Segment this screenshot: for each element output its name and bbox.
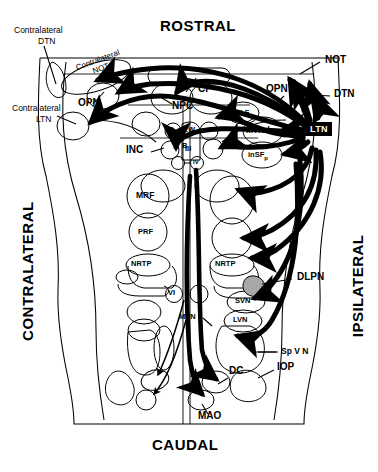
orientation-label-caudal: CAUDAL <box>152 437 218 453</box>
label-iop: IOP <box>277 362 294 373</box>
path-to-dtn-ipsi <box>318 98 320 118</box>
label-iv: IV <box>193 159 199 165</box>
orientation-label-rostral: ROSTRAL <box>160 18 236 34</box>
label-nrtp-ipsi: NRTP <box>215 260 235 268</box>
label-insfp-subscript: p <box>264 155 268 161</box>
orientation-label-contralateral: CONTRALATERAL <box>20 231 36 341</box>
label-mvn: MVN <box>179 313 196 321</box>
label-mtnd: MTNd <box>246 126 270 135</box>
label-svn: SVN <box>235 297 250 305</box>
label-iii: III <box>185 145 191 153</box>
path-to-mtnd <box>281 130 304 132</box>
path-to-iii <box>222 138 303 148</box>
label-spvn: Sp V N <box>281 347 308 356</box>
label-ew: EW <box>183 126 195 134</box>
brainstem-schematic-svg <box>0 0 378 472</box>
label-opn-contra: OPN <box>78 98 100 109</box>
label-inc: INC <box>126 145 143 156</box>
label-mao: MAO <box>198 411 221 422</box>
nucleus-dc <box>202 371 230 393</box>
label-rmlf: rMLF <box>231 109 249 117</box>
label-dlpn: DLPN <box>297 272 324 283</box>
label-mrf: MRF <box>136 191 154 200</box>
label-dc: DC <box>229 366 243 377</box>
label-cp: CP <box>198 84 212 95</box>
nucleus-sub-npc-left <box>132 112 160 136</box>
leader-iop <box>258 370 274 378</box>
leader-not-ipsi <box>300 62 320 74</box>
label-vi: VI <box>168 289 175 297</box>
label-d: D <box>169 126 174 134</box>
leader-dc <box>218 378 228 384</box>
label-contralateral-dtn-line1: Contralateral <box>14 26 63 35</box>
label-contralateral-ltn-line2: LTN <box>36 115 51 124</box>
descending-midline-pathways <box>187 170 216 394</box>
label-prf: PRF <box>138 228 153 236</box>
leader-contralateral-ltn <box>57 116 76 124</box>
nucleus-contralateral-ltn <box>57 112 89 140</box>
label-npc: NPC <box>172 101 193 112</box>
path-to-contralateral-not <box>98 68 307 124</box>
region-mid-right <box>195 170 239 202</box>
region-right-mrf <box>210 176 254 224</box>
label-ltn-source-node: LTN <box>306 122 332 136</box>
leader-inc <box>151 148 164 152</box>
label-insfp-main: inSF <box>248 150 264 159</box>
nucleus-iii-right2 <box>203 139 223 159</box>
label-dtn-ipsi: DTN <box>334 89 355 100</box>
label-not-ipsi: NOT <box>325 55 346 66</box>
label-contralateral-dtn-line2: DTN <box>38 37 55 46</box>
label-nrtp-contra: NRTP <box>131 260 151 268</box>
leader-mvn <box>203 318 212 326</box>
label-insfp: inSFp <box>248 151 268 161</box>
label-lvn: LVN <box>233 316 247 324</box>
label-contralateral-ltn-line1: Contralateral <box>12 104 61 113</box>
label-opn-ipsi: OPN <box>266 84 288 95</box>
ltn-projection-pathways <box>91 68 321 337</box>
figure-canvas: ROSTRAL CAUDAL CONTRALATERAL IPSILATERAL… <box>0 0 378 472</box>
orientation-label-ipsilateral: IPSILATERAL <box>350 231 366 341</box>
